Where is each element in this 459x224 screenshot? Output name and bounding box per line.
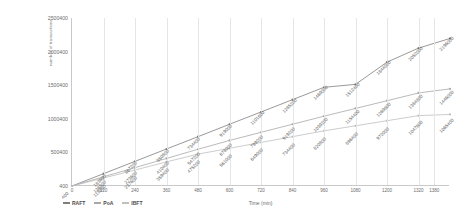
x-axis-tick-label: 480 bbox=[194, 188, 202, 193]
x-axis-tick-label: 840 bbox=[289, 188, 297, 193]
legend-item-poa[interactable]: PoA bbox=[94, 200, 113, 206]
chart-legend: RAFTPoAIBFT bbox=[63, 200, 142, 206]
legend-label: PoA bbox=[103, 200, 113, 206]
legend-label: IBFT bbox=[131, 200, 142, 206]
legend-swatch-icon bbox=[63, 202, 70, 203]
plot-area: number of transactions 25004002000400150… bbox=[71, 18, 449, 186]
gridline-vertical bbox=[104, 18, 105, 185]
gridline-vertical bbox=[261, 18, 262, 185]
y-axis-tick-label: 500400 bbox=[51, 149, 68, 155]
x-axis-tick-label: 1080 bbox=[350, 188, 360, 193]
x-axis-title: Time (min) bbox=[249, 200, 273, 206]
data-point-label: 400 bbox=[60, 191, 69, 200]
x-axis-tick-label: 600 bbox=[226, 188, 234, 193]
x-axis-tick-label: 0 bbox=[71, 188, 74, 193]
legend-swatch-icon bbox=[94, 202, 101, 203]
chart-container: number of transactions 25004002000400150… bbox=[0, 0, 459, 224]
y-axis-title: number of transactions bbox=[48, 19, 53, 66]
legend-item-ibft[interactable]: IBFT bbox=[122, 200, 142, 206]
y-axis-tick-label: 1000400 bbox=[48, 116, 68, 122]
x-axis-tick-label: 960 bbox=[320, 188, 328, 193]
x-axis-tick-label: 360 bbox=[163, 188, 171, 193]
x-axis-tick-label: 720 bbox=[257, 188, 265, 193]
legend-swatch-icon bbox=[122, 202, 129, 203]
x-axis-tick-label: 240 bbox=[131, 188, 139, 193]
y-axis-tick-label: 1500400 bbox=[48, 82, 68, 88]
y-axis-tick-label: 2500400 bbox=[48, 15, 68, 21]
legend-label: RAFT bbox=[72, 200, 85, 206]
gridline-vertical bbox=[434, 18, 435, 185]
legend-item-raft[interactable]: RAFT bbox=[63, 200, 85, 206]
x-axis-tick-label: 1380 bbox=[429, 188, 439, 193]
x-axis-tick-label: 1200 bbox=[382, 188, 392, 193]
gridline-vertical bbox=[356, 18, 357, 185]
data-point bbox=[449, 113, 451, 115]
y-axis-tick-label: 2000400 bbox=[48, 49, 68, 55]
y-axis-tick-label: 400 bbox=[59, 183, 68, 189]
gridline-vertical bbox=[324, 18, 325, 185]
x-axis-tick-label: 1320 bbox=[413, 188, 423, 193]
data-point bbox=[71, 185, 73, 187]
